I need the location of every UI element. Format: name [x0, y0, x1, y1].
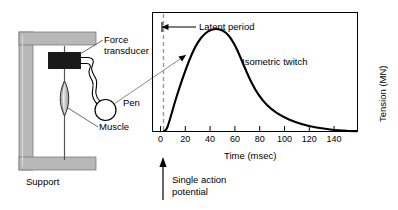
muscle-leader — [68, 108, 98, 127]
y-axis-label: Tension (MN) — [377, 66, 388, 123]
pen-marker — [95, 100, 116, 121]
isometric-twitch-curve — [164, 29, 357, 131]
x-tick-label-40: 40 — [203, 134, 218, 145]
latent-period-label: Latent period — [199, 21, 254, 32]
plot-frame — [153, 13, 358, 132]
muscle-label: Muscle — [99, 121, 129, 132]
stimulus-label-line1: Single action — [172, 174, 226, 185]
x-tick-label-20: 20 — [178, 134, 193, 145]
x-tick-label-0: 0 — [153, 134, 168, 145]
transducer-to-pen-wire — [81, 58, 102, 105]
stimulus-arrow — [159, 157, 166, 200]
force-transducer-label-line1: Force — [104, 34, 128, 45]
x-tick-label-140: 140 — [327, 134, 342, 145]
stimulus-label-line2: potential — [172, 186, 208, 197]
pen-label: Pen — [123, 97, 140, 108]
muscle-shape — [60, 81, 69, 116]
latent-period-indicator — [162, 22, 197, 32]
force-transducer-label-line2: transducer — [104, 45, 149, 56]
force-transducer — [48, 52, 81, 69]
support-label: Support — [26, 176, 59, 187]
x-tick-label-100: 100 — [277, 134, 292, 145]
x-tick-label-80: 80 — [252, 134, 267, 145]
x-tick-label-120: 120 — [302, 134, 317, 145]
x-tick-label-60: 60 — [227, 134, 242, 145]
isometric-twitch-label: Isometric twitch — [242, 56, 307, 67]
x-axis-label: Time (msec) — [224, 150, 276, 161]
figure-root: Force transducer Pen Muscle Support Late… — [0, 0, 398, 210]
